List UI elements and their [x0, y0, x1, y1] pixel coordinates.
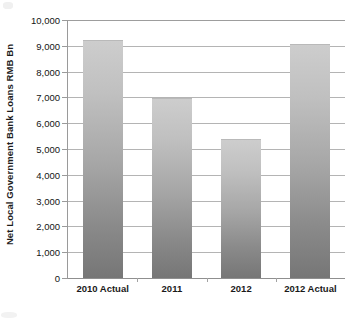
y-axis-tick-mark — [62, 201, 68, 202]
bar — [152, 98, 192, 278]
y-axis-tick-mark — [62, 72, 68, 73]
y-axis-tick-label: 4,000 — [14, 169, 60, 180]
y-axis-tick-mark — [62, 252, 68, 253]
x-axis-tick-mark — [137, 278, 138, 282]
y-axis-tick-mark — [62, 97, 68, 98]
x-axis-tick-mark — [207, 278, 208, 282]
y-axis-tick-label: 5,000 — [14, 144, 60, 155]
x-axis-tick-label: 2012 Actual — [284, 283, 336, 294]
y-axis-tick-label: 1,000 — [14, 247, 60, 258]
y-axis-tick-label: 2,000 — [14, 221, 60, 232]
bar — [83, 40, 123, 278]
y-axis-tick-mark — [62, 278, 68, 279]
y-axis-tick-label: 0 — [14, 273, 60, 284]
y-axis-tick-mark — [62, 20, 68, 21]
y-axis-tick-label: 9,000 — [14, 40, 60, 51]
y-axis-tick-label: 7,000 — [14, 92, 60, 103]
y-axis-tick-mark — [62, 123, 68, 124]
y-axis-tick-label: 8,000 — [14, 66, 60, 77]
x-axis-tick-mark — [276, 278, 277, 282]
x-axis-tick-labels: 2010 Actual201120122012 Actual — [68, 283, 345, 303]
bar — [290, 44, 330, 278]
x-axis-tick-label: 2011 — [162, 283, 183, 294]
y-axis-tick-label: 3,000 — [14, 195, 60, 206]
y-axis-tick-mark — [62, 226, 68, 227]
x-axis-tick-label: 2012 — [231, 283, 252, 294]
plot-area — [68, 20, 345, 278]
y-axis-tick-labels: 10,0009,0008,0007,0006,0005,0004,0003,00… — [12, 0, 60, 325]
y-axis-tick-label: 6,000 — [14, 118, 60, 129]
bar — [221, 139, 261, 278]
y-axis-tick-mark — [62, 149, 68, 150]
bar-chart-figure: Net Local Government Bank Loans RMB Bn 1… — [0, 0, 361, 325]
gridline — [68, 20, 345, 21]
y-axis-tick-mark — [62, 46, 68, 47]
y-axis-tick-label: 10,000 — [14, 15, 60, 26]
x-axis-tick-label: 2010 Actual — [76, 283, 128, 294]
y-axis-tick-mark — [62, 175, 68, 176]
